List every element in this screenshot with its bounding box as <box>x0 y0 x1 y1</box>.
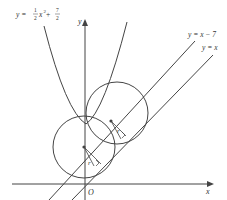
svg-text:2: 2 <box>34 15 37 21</box>
origin-label: O <box>88 188 94 197</box>
svg-text:2: 2 <box>56 15 59 21</box>
radius-label-lower: r <box>88 159 91 167</box>
x-axis <box>12 181 214 187</box>
right-angle-mark-upper <box>122 132 125 138</box>
svg-text:x: x <box>38 10 43 19</box>
diagram-canvas: x y O r r y = 1 2 x 2 + 7 2 y = x − 7 y … <box>0 0 227 200</box>
line-lower-label: y = x <box>201 43 218 52</box>
y-axis-label: y <box>77 17 82 26</box>
svg-text:7: 7 <box>56 7 59 13</box>
radius-lower <box>84 147 101 164</box>
svg-text:1: 1 <box>34 7 37 13</box>
svg-text:+: + <box>46 10 50 19</box>
line-upper-label: y = x − 7 <box>187 30 216 39</box>
svg-text:y =: y = <box>15 10 26 19</box>
radius-label-upper: r <box>117 127 120 135</box>
line-y-equals-x <box>72 55 213 200</box>
y-axis <box>82 19 88 200</box>
y-axis-arrow-icon <box>82 19 88 26</box>
line-y-equals-x-minus-7 <box>49 41 195 200</box>
parabola-equation-label: y = 1 2 x 2 + 7 2 <box>15 7 60 21</box>
x-axis-label: x <box>205 187 210 196</box>
